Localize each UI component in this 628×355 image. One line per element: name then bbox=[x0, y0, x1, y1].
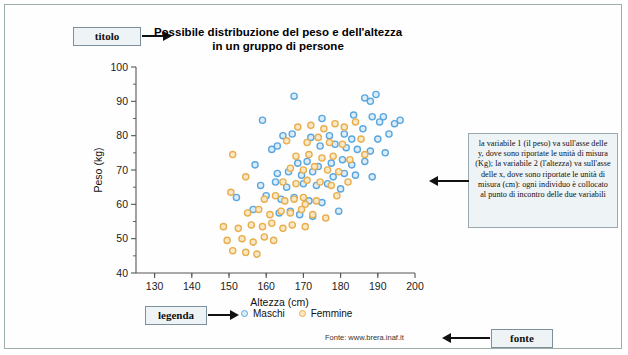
data-point bbox=[261, 234, 267, 240]
data-point bbox=[328, 160, 334, 166]
data-point bbox=[239, 236, 245, 242]
data-point bbox=[228, 189, 234, 195]
data-point bbox=[397, 117, 403, 123]
data-point bbox=[352, 172, 358, 178]
legend-label-maschi: Maschi bbox=[253, 308, 285, 319]
data-point bbox=[287, 165, 293, 171]
annotation-text: la variabile 1 (il peso) va sull'asse de… bbox=[475, 139, 610, 199]
data-point bbox=[341, 131, 347, 137]
data-point bbox=[289, 222, 295, 228]
x-tick-label: 170 bbox=[295, 280, 313, 292]
data-point bbox=[280, 179, 286, 185]
data-point bbox=[338, 186, 344, 192]
data-point bbox=[324, 167, 330, 173]
data-point bbox=[243, 174, 249, 180]
data-point bbox=[330, 153, 336, 159]
callout-fonte-label: fonte bbox=[510, 332, 534, 344]
data-point bbox=[321, 126, 327, 132]
y-tick-label: 90 bbox=[116, 95, 128, 107]
data-point bbox=[295, 124, 301, 130]
x-tick-label: 190 bbox=[369, 280, 387, 292]
data-point bbox=[360, 126, 366, 132]
data-point bbox=[315, 134, 321, 140]
data-point bbox=[289, 131, 295, 137]
data-point bbox=[291, 196, 297, 202]
data-point bbox=[367, 98, 373, 104]
data-point bbox=[375, 136, 381, 142]
data-point bbox=[304, 139, 310, 145]
data-point bbox=[287, 210, 293, 216]
y-tick-label: 80 bbox=[116, 129, 128, 141]
data-point bbox=[345, 179, 351, 185]
arrow-legenda bbox=[208, 310, 240, 320]
data-point bbox=[369, 174, 375, 180]
data-point bbox=[259, 117, 265, 123]
data-point bbox=[284, 138, 290, 144]
data-point bbox=[224, 237, 230, 243]
data-point bbox=[293, 181, 299, 187]
data-point bbox=[235, 225, 241, 231]
data-point bbox=[352, 119, 358, 125]
arrow-fonte bbox=[442, 333, 490, 343]
data-point bbox=[306, 151, 312, 157]
data-point bbox=[362, 151, 368, 157]
data-point bbox=[282, 198, 288, 204]
data-point bbox=[230, 151, 236, 157]
data-point bbox=[310, 212, 316, 218]
data-point bbox=[317, 143, 323, 149]
data-point bbox=[254, 251, 260, 257]
figure-frame: titolo Possibile distribuzione del peso … bbox=[4, 4, 622, 349]
callout-legenda-label: legenda bbox=[158, 309, 194, 321]
data-point bbox=[304, 177, 310, 183]
y-tick-label: 60 bbox=[116, 198, 128, 210]
annotation-box: la variabile 1 (il peso) va sull'asse de… bbox=[468, 133, 618, 228]
x-axis-label: Altezza (cm) bbox=[250, 296, 308, 308]
legend-label-femmine: Femmine bbox=[311, 308, 353, 319]
data-point bbox=[248, 222, 254, 228]
data-point bbox=[220, 224, 226, 230]
chart-legend: Maschi Femmine bbox=[241, 308, 352, 319]
data-point bbox=[269, 220, 275, 226]
data-point bbox=[256, 206, 262, 212]
data-point bbox=[330, 174, 336, 180]
data-point bbox=[291, 93, 297, 99]
data-point bbox=[293, 153, 299, 159]
circle-marker-icon bbox=[299, 310, 306, 317]
data-point bbox=[298, 206, 304, 212]
data-point bbox=[259, 224, 265, 230]
data-point bbox=[250, 239, 256, 245]
x-tick-label: 140 bbox=[183, 280, 201, 292]
data-point bbox=[317, 179, 323, 185]
data-point bbox=[258, 182, 264, 188]
data-point bbox=[319, 155, 325, 161]
data-point bbox=[280, 225, 286, 231]
y-tick-label: 40 bbox=[116, 267, 128, 279]
data-point bbox=[339, 157, 345, 163]
data-point bbox=[354, 146, 360, 152]
data-point bbox=[272, 193, 278, 199]
data-point bbox=[274, 170, 280, 176]
data-point bbox=[313, 198, 319, 204]
data-point bbox=[245, 210, 251, 216]
data-point bbox=[271, 237, 277, 243]
data-point bbox=[319, 115, 325, 121]
data-point bbox=[358, 136, 364, 142]
series-femmine bbox=[220, 119, 368, 257]
data-point bbox=[261, 196, 267, 202]
data-point bbox=[311, 163, 317, 169]
legend-item-femmine[interactable]: Femmine bbox=[299, 308, 353, 319]
data-point bbox=[300, 194, 306, 200]
data-point bbox=[326, 139, 332, 145]
y-tick-label: 50 bbox=[116, 232, 128, 244]
data-point bbox=[339, 141, 345, 147]
data-point bbox=[349, 136, 355, 142]
data-point bbox=[295, 160, 301, 166]
callout-fonte: fonte bbox=[491, 329, 553, 348]
data-point bbox=[267, 212, 273, 218]
data-point bbox=[336, 208, 342, 214]
arrow-annotation bbox=[429, 176, 469, 186]
legend-item-maschi[interactable]: Maschi bbox=[241, 308, 285, 319]
data-point bbox=[300, 167, 306, 173]
x-tick-label: 200 bbox=[406, 280, 424, 292]
data-point bbox=[373, 91, 379, 97]
